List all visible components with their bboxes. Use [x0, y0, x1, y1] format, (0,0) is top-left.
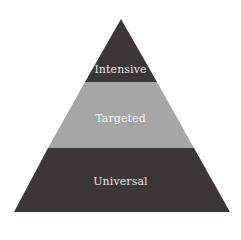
tier-universal-label: Universal [0, 175, 241, 188]
tier-intensive-label: Intensive [0, 63, 241, 76]
tier-targeted-label: Targeted [0, 112, 241, 125]
